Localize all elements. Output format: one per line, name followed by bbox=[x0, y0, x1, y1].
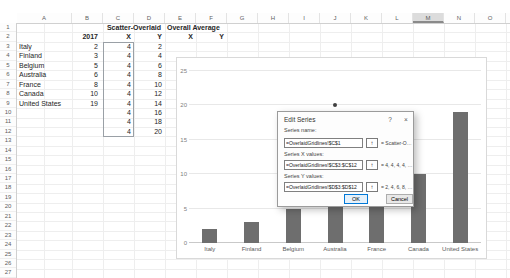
x-value-cell[interactable]: 4 bbox=[103, 127, 131, 136]
y-value-cell[interactable]: 14 bbox=[134, 99, 162, 108]
column-header-cell[interactable]: O bbox=[475, 13, 506, 23]
table-row[interactable]: United States 19 bbox=[17, 99, 98, 108]
row-header-cell[interactable]: 4 bbox=[0, 51, 16, 60]
column-header-cell[interactable]: J bbox=[320, 13, 351, 23]
row-header-cell[interactable]: 12 bbox=[0, 127, 16, 136]
cell-y-header[interactable]: Y bbox=[134, 32, 162, 41]
ok-button[interactable]: OK bbox=[344, 194, 368, 204]
column-header-cell[interactable]: E bbox=[165, 13, 196, 23]
row-header-cell[interactable]: 13 bbox=[0, 136, 16, 145]
column-header-cell[interactable]: H bbox=[258, 13, 289, 23]
help-icon[interactable]: ? bbox=[386, 116, 394, 123]
country-cell[interactable]: Italy bbox=[17, 42, 32, 51]
bar-finland[interactable] bbox=[244, 222, 259, 243]
bar-italy[interactable] bbox=[202, 229, 217, 243]
table-row[interactable]: Finland 3 bbox=[17, 51, 98, 60]
table-row[interactable]: Australia 6 bbox=[17, 70, 98, 79]
x-value-cell[interactable]: 4 bbox=[103, 117, 131, 126]
table-row[interactable]: Italy 2 bbox=[17, 42, 98, 51]
series-x-input[interactable] bbox=[284, 160, 363, 170]
row-header-cell[interactable]: 24 bbox=[0, 240, 16, 249]
column-header-cell[interactable]: A bbox=[17, 13, 72, 23]
row-header-cell[interactable]: 17 bbox=[0, 174, 16, 183]
value-cell[interactable]: 8 bbox=[94, 80, 98, 89]
bar-belgium[interactable] bbox=[286, 209, 301, 243]
country-cell[interactable]: France bbox=[17, 80, 41, 89]
y-value-cell[interactable]: 4 bbox=[134, 51, 162, 60]
country-cell[interactable]: Canada bbox=[17, 89, 44, 98]
x-value-cell[interactable]: 4 bbox=[103, 89, 131, 98]
row-header-cell[interactable]: 1 bbox=[0, 23, 16, 32]
row-header-cell[interactable]: 3 bbox=[0, 42, 16, 51]
row-header-cell[interactable]: 21 bbox=[0, 212, 16, 221]
column-header-cell[interactable]: D bbox=[134, 13, 165, 23]
cell-avg-y-header[interactable]: Y bbox=[196, 32, 224, 41]
row-header-cell[interactable]: 19 bbox=[0, 193, 16, 202]
cell-avg-x-header[interactable]: X bbox=[165, 32, 193, 41]
row-header-cell[interactable]: 18 bbox=[0, 183, 16, 192]
row-header-cell[interactable]: 14 bbox=[0, 146, 16, 155]
column-header-cell[interactable]: L bbox=[382, 13, 413, 23]
column-header-cell[interactable]: N bbox=[444, 13, 475, 23]
row-header-cell[interactable]: 10 bbox=[0, 108, 16, 117]
y-value-cell[interactable]: 12 bbox=[134, 89, 162, 98]
bar-australia[interactable] bbox=[328, 202, 343, 243]
y-value-cell[interactable]: 16 bbox=[134, 108, 162, 117]
row-header-cell[interactable]: 27 bbox=[0, 268, 16, 277]
scatter-point[interactable] bbox=[333, 103, 337, 107]
value-cell[interactable]: 19 bbox=[90, 99, 98, 108]
value-cell[interactable]: 2 bbox=[94, 42, 98, 51]
row-header-cell[interactable]: 15 bbox=[0, 155, 16, 164]
edit-series-dialog[interactable]: Edit Series ? × Series name: ↑ = Scatter… bbox=[277, 111, 414, 207]
column-header-cell[interactable]: K bbox=[351, 13, 382, 23]
series-name-input[interactable] bbox=[284, 138, 363, 148]
column-header-cell[interactable]: B bbox=[72, 13, 103, 23]
range-picker-icon[interactable]: ↑ bbox=[366, 138, 378, 148]
table-row[interactable]: France 8 bbox=[17, 80, 98, 89]
x-value-cell[interactable]: 4 bbox=[103, 42, 131, 51]
value-cell[interactable]: 3 bbox=[94, 51, 98, 60]
close-icon[interactable]: × bbox=[402, 116, 410, 123]
cell-year-header[interactable]: 2017 bbox=[72, 32, 98, 41]
country-cell[interactable]: Finland bbox=[17, 51, 42, 60]
column-header-cell[interactable]: F bbox=[196, 13, 227, 23]
table-row[interactable]: Belgium 5 bbox=[17, 61, 98, 70]
cell-overall-average-title[interactable]: Overall Average bbox=[167, 23, 227, 32]
country-cell[interactable]: Australia bbox=[17, 70, 46, 79]
x-value-cell[interactable]: 4 bbox=[103, 80, 131, 89]
column-header-cell[interactable]: G bbox=[227, 13, 258, 23]
column-header-cell[interactable]: M bbox=[413, 13, 444, 23]
series-y-input[interactable] bbox=[284, 182, 363, 192]
range-picker-icon[interactable]: ↑ bbox=[366, 160, 378, 170]
country-cell[interactable]: United States bbox=[17, 99, 61, 108]
row-header-cell[interactable]: 8 bbox=[0, 89, 16, 98]
row-header-cell[interactable]: 20 bbox=[0, 202, 16, 211]
y-value-cell[interactable]: 2 bbox=[134, 42, 162, 51]
row-header-cell[interactable]: 23 bbox=[0, 231, 16, 240]
x-value-cell[interactable]: 4 bbox=[103, 70, 131, 79]
value-cell[interactable]: 10 bbox=[90, 89, 98, 98]
row-header-cell[interactable]: 25 bbox=[0, 250, 16, 259]
x-value-cell[interactable]: 4 bbox=[103, 99, 131, 108]
x-value-cell[interactable]: 4 bbox=[103, 61, 131, 70]
row-header-cell[interactable]: 9 bbox=[0, 99, 16, 108]
row-header-cell[interactable]: 16 bbox=[0, 165, 16, 174]
column-header-cell[interactable]: C bbox=[103, 13, 134, 23]
value-cell[interactable]: 6 bbox=[94, 70, 98, 79]
value-cell[interactable]: 5 bbox=[94, 61, 98, 70]
range-picker-icon[interactable]: ↑ bbox=[366, 182, 378, 192]
y-value-cell[interactable]: 10 bbox=[134, 80, 162, 89]
bar-united-states[interactable] bbox=[453, 112, 468, 243]
x-value-cell[interactable]: 4 bbox=[103, 108, 131, 117]
row-header-cell[interactable]: 7 bbox=[0, 80, 16, 89]
cell-x-header[interactable]: X bbox=[103, 32, 131, 41]
row-header-cell[interactable]: 26 bbox=[0, 259, 16, 268]
column-header-cell[interactable]: I bbox=[289, 13, 320, 23]
cell-scatter-overlaid-title[interactable]: Scatter-Overlaid bbox=[103, 23, 165, 32]
country-cell[interactable]: Belgium bbox=[17, 61, 44, 70]
table-row[interactable]: Canada 10 bbox=[17, 89, 98, 98]
row-header-cell[interactable]: 5 bbox=[0, 61, 16, 70]
cancel-button[interactable]: Cancel bbox=[386, 194, 413, 204]
row-header-cell[interactable]: 11 bbox=[0, 117, 16, 126]
x-value-cell[interactable]: 4 bbox=[103, 51, 131, 60]
